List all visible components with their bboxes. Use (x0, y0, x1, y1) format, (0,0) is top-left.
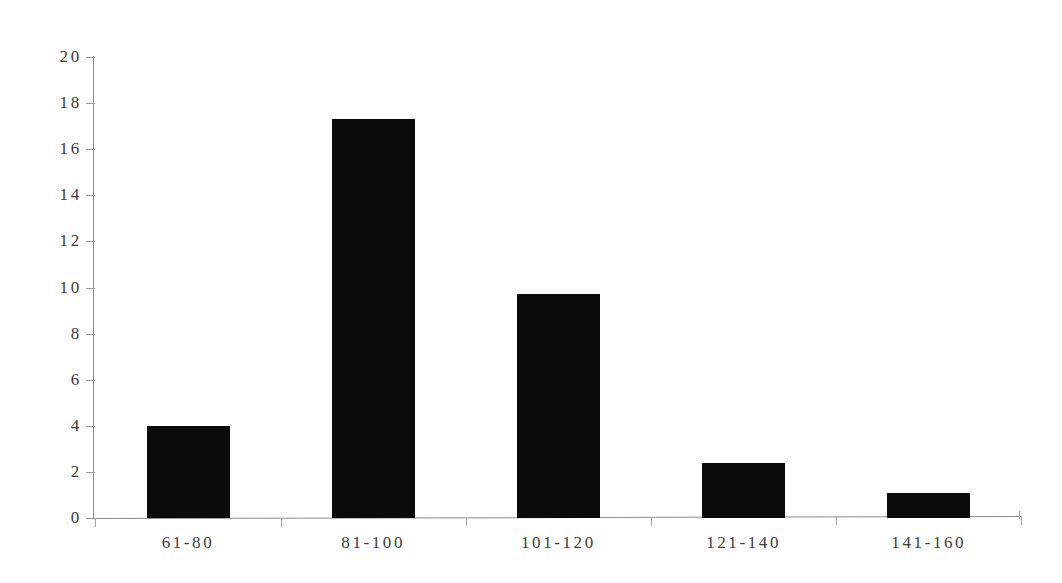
bar (702, 463, 785, 518)
bar-group (0, 0, 1062, 518)
x-axis-tick-label: 61-80 (98, 533, 278, 553)
plot-area: 02468101214161820 61-8081-100101-120121-… (0, 0, 1062, 583)
bar (147, 426, 230, 518)
x-axis-tick-label: 81-100 (283, 533, 463, 553)
bar (887, 493, 970, 518)
x-axis-tick-label: 101-120 (468, 533, 648, 553)
x-axis-tick (95, 518, 96, 527)
bar-chart: 02468101214161820 61-8081-100101-120121-… (0, 0, 1062, 583)
x-axis-tick (466, 517, 467, 526)
x-axis-tick (651, 517, 652, 526)
bar (332, 119, 415, 518)
x-axis-tick (281, 518, 282, 527)
x-axis-tick-label: 121-140 (654, 533, 834, 553)
x-axis-tick-label: 141-160 (839, 533, 1019, 553)
bar (517, 294, 600, 518)
